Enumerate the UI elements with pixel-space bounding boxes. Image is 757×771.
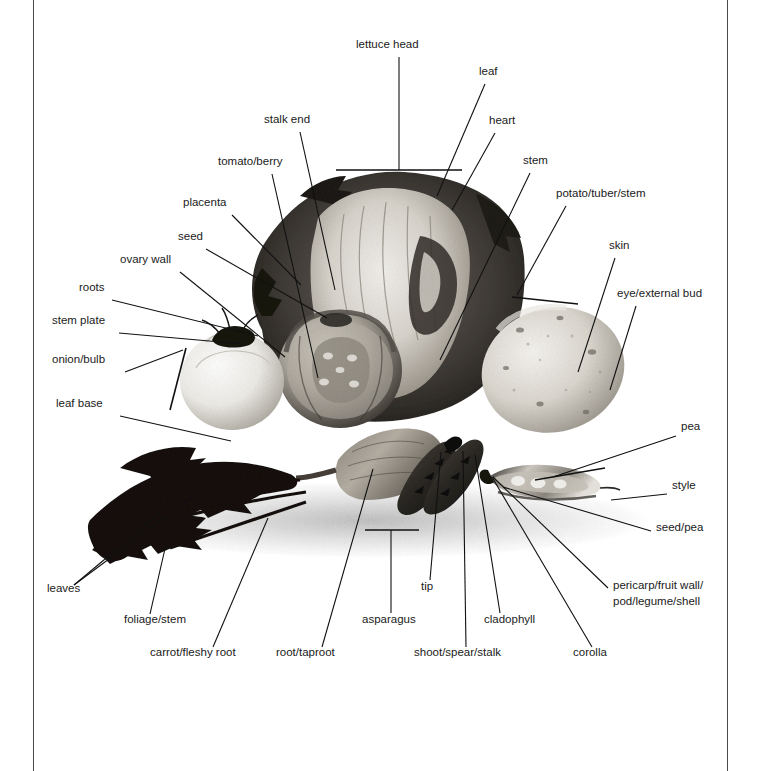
label-root-taproot: root/taproot (276, 646, 336, 658)
label-carrot-root: carrot/fleshy root (150, 646, 236, 658)
figure-page: lettuce headleafheartstemstalk endtomato… (0, 0, 757, 771)
label-tip: tip (421, 580, 433, 592)
leader-line-onion-bulb-line (125, 350, 183, 372)
label-foliage-stem: foliage/stem (124, 613, 186, 625)
tomato-stem-scar (320, 313, 352, 327)
label-shoot-spear: shoot/spear/stalk (414, 646, 501, 658)
leader-line-style-line (611, 494, 667, 500)
label-pea: pea (681, 420, 701, 432)
label-leaves: leaves (47, 582, 80, 594)
label-eye-external: eye/external bud (617, 287, 702, 299)
pea-style (600, 488, 620, 490)
label-lettuce-head: lettuce head (356, 38, 419, 50)
label-seed-pea: seed/pea (656, 521, 704, 533)
label-potato-tuber: potato/tuber/stem (556, 187, 646, 199)
label-seed: seed (178, 230, 203, 242)
carrot-taproot (296, 470, 336, 478)
label-style: style (672, 479, 696, 491)
label-leaf-base: leaf base (56, 397, 103, 409)
label-stem-plate: stem plate (52, 314, 105, 326)
label-placenta: placenta (183, 196, 227, 208)
label-pericarp-2: pod/legume/shell (613, 595, 700, 607)
leader-line-potato-tuber-line (517, 206, 566, 295)
label-corolla: corolla (573, 646, 607, 658)
tomato-object (278, 312, 402, 428)
onion-stem-plate (212, 326, 255, 348)
label-stem: stem (523, 154, 548, 166)
label-onion-bulb: onion/bulb (52, 353, 105, 365)
labelled-figure: lettuce headleafheartstemstalk endtomato… (0, 0, 757, 771)
leader-line-leaf-line (437, 84, 485, 196)
label-stalk-end: stalk end (264, 113, 310, 125)
label-leaf: leaf (479, 65, 498, 77)
label-roots: roots (79, 281, 105, 293)
label-pericarp-1: pericarp/fruit wall/ (613, 579, 704, 591)
label-asparagus: asparagus (362, 613, 416, 625)
leader-line-pea-line (553, 436, 676, 477)
label-ovary-wall: ovary wall (120, 253, 171, 265)
label-tomato-berry: tomato/berry (218, 155, 283, 167)
label-skin: skin (609, 239, 629, 251)
label-cladophyll: cladophyll (484, 613, 535, 625)
label-heart: heart (489, 114, 516, 126)
